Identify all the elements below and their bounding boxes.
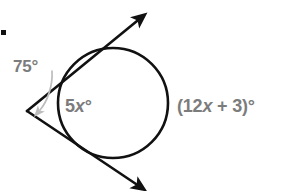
exterior-angle-label: 75° [13, 58, 38, 75]
lower-tangent-ray [27, 111, 136, 184]
far-arc-angle-label: (12x + 3)° [177, 97, 255, 115]
far-arc-suffix: + 3)° [212, 96, 255, 116]
near-arc-suffix: ° [85, 96, 92, 116]
far-arc-variable: x [202, 96, 212, 116]
geometry-figure: 75° 5x° (12x + 3)° [0, 0, 288, 191]
near-arc-prefix: 5 [65, 96, 75, 116]
near-arc-variable: x [75, 96, 85, 116]
near-arc-angle-label: 5x° [65, 97, 92, 115]
angle-leader-line [40, 71, 52, 110]
far-arc-prefix: (12 [177, 96, 202, 116]
